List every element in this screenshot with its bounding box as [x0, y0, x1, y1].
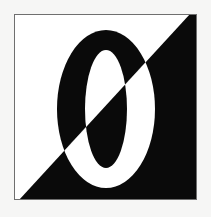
screenshot-canvas: [0, 0, 211, 217]
diagonal-zero-graphic: [14, 14, 197, 200]
artwork-panel: [14, 14, 197, 200]
